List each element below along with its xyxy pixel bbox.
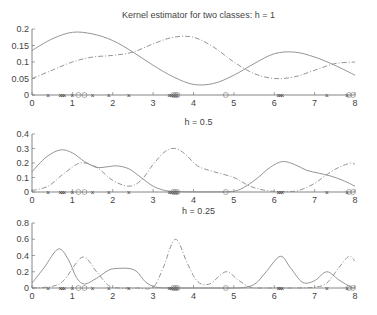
class1-marker: × <box>127 189 131 196</box>
x-tick-label: 3 <box>151 195 156 205</box>
class1-marker: × <box>107 92 111 99</box>
x-tick-label: 5 <box>231 291 236 301</box>
class1-marker: × <box>91 92 95 99</box>
x-tick-label: 0 <box>29 98 34 108</box>
class1-marker: × <box>46 92 50 99</box>
class1-marker: × <box>62 189 66 196</box>
x-tick-label: 5 <box>231 195 236 205</box>
x-tick-label: 4 <box>191 195 196 205</box>
class1-marker: × <box>107 285 111 292</box>
y-tick-label: 0 <box>24 283 29 293</box>
x-tick-label: 2 <box>110 195 115 205</box>
x-tick-label: 2 <box>110 98 115 108</box>
kernel-estimator-figure: Kernel estimator for two classes: h = 10… <box>0 0 377 315</box>
x-tick-label: 1 <box>70 291 75 301</box>
class1-curve <box>32 32 355 85</box>
y-tick-label: 0.4 <box>16 251 29 261</box>
class1-marker: × <box>325 285 329 292</box>
class1-marker: × <box>127 285 131 292</box>
subplot-title: h = 0.5 <box>185 117 213 127</box>
x-tick-label: 3 <box>151 291 156 301</box>
subplot-title: Kernel estimator for two classes: h = 1 <box>122 10 275 20</box>
x-tick-label: 6 <box>272 291 277 301</box>
x-tick-label: 0 <box>29 195 34 205</box>
class1-marker: × <box>46 285 50 292</box>
class1-marker: × <box>325 189 329 196</box>
class1-marker: × <box>127 92 131 99</box>
y-tick-label: 0.1 <box>16 173 29 183</box>
y-tick-label: 0.2 <box>16 158 29 168</box>
class1-curve <box>32 150 355 192</box>
x-tick-label: 7 <box>312 195 317 205</box>
class2-curve <box>32 36 355 78</box>
x-tick-label: 8 <box>352 195 357 205</box>
class1-marker: × <box>70 189 74 196</box>
class1-marker: × <box>280 189 284 196</box>
y-tick-label: 0.2 <box>16 24 29 34</box>
class2-curve <box>32 239 355 289</box>
x-tick-label: 5 <box>231 98 236 108</box>
x-tick-label: 0 <box>29 291 34 301</box>
y-tick-label: 0.8 <box>16 218 29 228</box>
class1-marker: × <box>62 92 66 99</box>
class1-marker: × <box>62 285 66 292</box>
x-tick-label: 7 <box>312 98 317 108</box>
subplot-title: h = 0.25 <box>182 206 215 216</box>
subplot-1: Kernel estimator for two classes: h = 10… <box>11 10 357 108</box>
class1-curve <box>32 249 355 288</box>
class1-marker: × <box>280 285 284 292</box>
x-tick-label: 6 <box>272 98 277 108</box>
class1-marker: × <box>70 92 74 99</box>
x-tick-label: 8 <box>352 291 357 301</box>
x-tick-label: 8 <box>352 98 357 108</box>
y-tick-label: 0.3 <box>16 144 29 154</box>
y-tick-label: 0.05 <box>11 74 29 84</box>
class1-marker: × <box>46 189 50 196</box>
class1-marker: × <box>325 92 329 99</box>
x-tick-label: 7 <box>312 291 317 301</box>
x-tick-label: 2 <box>110 291 115 301</box>
x-tick-label: 4 <box>191 98 196 108</box>
class1-marker: × <box>91 189 95 196</box>
class1-marker: × <box>107 189 111 196</box>
x-tick-label: 6 <box>272 195 277 205</box>
y-tick-label: 0 <box>24 187 29 197</box>
subplot-2: h = 0.500.10.20.30.4012345678×××××××××××… <box>16 117 357 205</box>
class1-marker: × <box>91 285 95 292</box>
y-tick-label: 0.2 <box>16 267 29 277</box>
class1-marker: × <box>70 285 74 292</box>
y-tick-label: 0.6 <box>16 234 29 244</box>
class1-marker: × <box>280 92 284 99</box>
y-tick-label: 0 <box>24 90 29 100</box>
x-tick-label: 1 <box>70 98 75 108</box>
y-tick-label: 0.15 <box>11 41 29 51</box>
subplot-3: h = 0.2500.20.40.60.8012345678××××××××××… <box>16 206 357 301</box>
y-tick-label: 0.1 <box>16 57 29 67</box>
x-tick-label: 4 <box>191 291 196 301</box>
x-tick-label: 1 <box>70 195 75 205</box>
x-tick-label: 3 <box>151 98 156 108</box>
y-tick-label: 0.4 <box>16 129 29 139</box>
